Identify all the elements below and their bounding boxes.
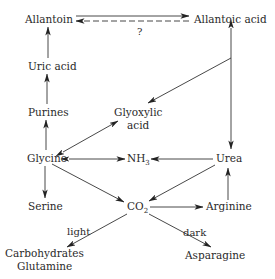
node-glutamine: Glutamine xyxy=(17,260,72,272)
node-purines: Purines xyxy=(28,106,69,118)
node-allantoic-acid: Allantoic acid xyxy=(193,13,267,25)
node-glycine: Glycine xyxy=(27,152,67,164)
nh3-base: NH xyxy=(127,152,145,164)
co2-subscript: 2 xyxy=(144,207,148,215)
edge-label-unknown: ? xyxy=(137,26,142,37)
edge-label-dark: dark xyxy=(183,227,207,238)
nh3-subscript: 3 xyxy=(145,159,149,167)
edge-glycine-to-co2 xyxy=(52,164,124,202)
edge-allantoic-acid-to-glyoxylic-acid xyxy=(148,58,231,103)
metabolic-pathway-diagram: Allantoin Allantoic acid Uric acid Purin… xyxy=(0,0,275,279)
node-urea: Urea xyxy=(216,152,242,164)
edge-glycine-glyoxylic-acid xyxy=(63,121,118,152)
co2-base: CO xyxy=(127,200,144,212)
node-co2: CO2 xyxy=(127,200,148,215)
edge-label-light: light xyxy=(67,226,90,237)
node-glyoxylic-acid-line2: acid xyxy=(127,119,149,131)
edges xyxy=(45,16,231,247)
node-asparagine: Asparagine xyxy=(184,249,245,261)
node-glyoxylic-acid-line1: Glyoxylic xyxy=(114,106,163,118)
node-uric-acid: Uric acid xyxy=(28,60,77,72)
edge-urea-to-co2 xyxy=(149,165,215,201)
node-arginine: Arginine xyxy=(205,200,252,212)
node-allantoin: Allantoin xyxy=(24,13,73,25)
node-serine: Serine xyxy=(28,200,63,212)
node-nh3: NH3 xyxy=(127,152,150,167)
nodes: Allantoin Allantoic acid Uric acid Purin… xyxy=(5,13,267,272)
node-carbohydrates: Carbohydrates xyxy=(5,247,84,259)
